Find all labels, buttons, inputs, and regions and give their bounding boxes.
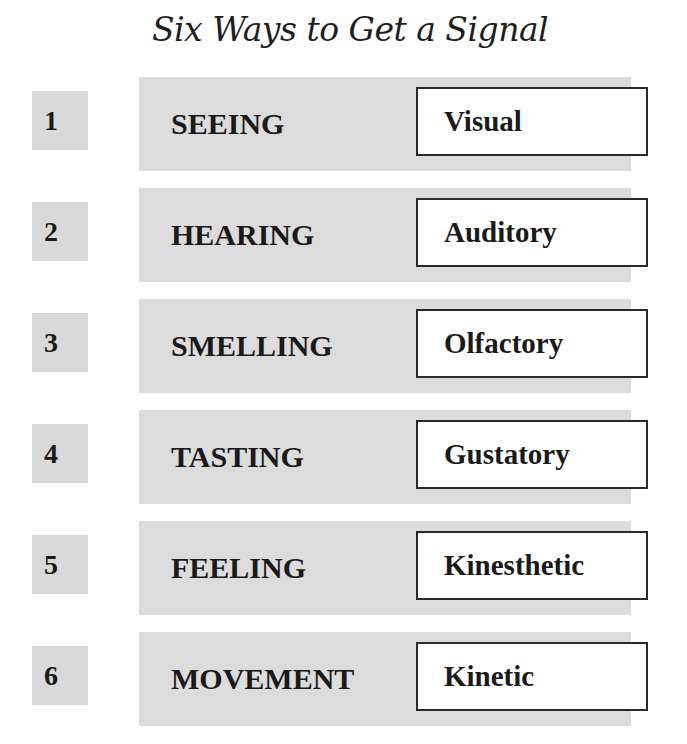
term-box: Visual — [416, 87, 648, 156]
sense-label: MOVEMENT — [171, 632, 354, 726]
term-box: Olfactory — [416, 309, 648, 378]
signal-row-4: 4 TASTING Gustatory — [0, 410, 687, 504]
sense-label: SEEING — [171, 77, 284, 171]
sense-label: FEELING — [171, 521, 306, 615]
row-number: 6 — [32, 646, 88, 705]
row-number: 2 — [32, 202, 88, 261]
signal-row-5: 5 FEELING Kinesthetic — [0, 521, 687, 615]
signal-row-1: 1 SEEING Visual — [0, 77, 687, 171]
signal-row-6: 6 MOVEMENT Kinetic — [0, 632, 687, 726]
row-number: 1 — [32, 91, 88, 150]
signal-row-2: 2 HEARING Auditory — [0, 188, 687, 282]
sense-label: HEARING — [171, 188, 314, 282]
row-number: 5 — [32, 535, 88, 594]
term-box: Kinesthetic — [416, 531, 648, 600]
term-box: Kinetic — [416, 642, 648, 711]
sense-label: TASTING — [171, 410, 304, 504]
row-number: 4 — [32, 424, 88, 483]
term-box: Gustatory — [416, 420, 648, 489]
diagram-title: Six Ways to Get a Signal — [0, 10, 687, 49]
term-box: Auditory — [416, 198, 648, 267]
signal-row-3: 3 SMELLING Olfactory — [0, 299, 687, 393]
sense-label: SMELLING — [171, 299, 333, 393]
row-number: 3 — [32, 313, 88, 372]
